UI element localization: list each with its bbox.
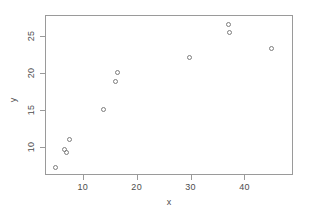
x-axis-tick-label: 40 xyxy=(239,182,250,192)
data-point xyxy=(113,79,118,84)
y-axis-tick-label: 20 xyxy=(26,67,36,78)
y-axis-tick-label: 10 xyxy=(26,142,36,153)
x-axis-tick xyxy=(137,175,138,180)
x-axis-title: x xyxy=(167,197,172,207)
x-axis-tick xyxy=(244,175,245,180)
y-axis-tick xyxy=(40,73,45,74)
data-point xyxy=(64,150,69,155)
scatter-plot-figure: 1020304010152025 x y xyxy=(0,0,309,217)
x-axis-tick-label: 30 xyxy=(185,182,196,192)
x-axis-tick xyxy=(83,175,84,180)
y-axis-tick xyxy=(40,147,45,148)
y-axis-tick xyxy=(40,36,45,37)
y-axis-tick xyxy=(40,110,45,111)
plot-frame xyxy=(45,15,293,175)
data-point xyxy=(269,46,274,51)
y-axis-title: y xyxy=(8,98,18,103)
x-axis-tick-label: 20 xyxy=(131,182,142,192)
data-point xyxy=(226,22,231,27)
y-axis-tick-label: 15 xyxy=(26,104,36,115)
data-point xyxy=(101,107,106,112)
x-axis-tick-label: 10 xyxy=(77,182,88,192)
y-axis-tick-label: 25 xyxy=(26,30,36,41)
x-axis-tick xyxy=(191,175,192,180)
